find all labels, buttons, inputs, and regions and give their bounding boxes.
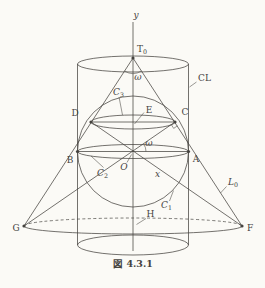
label-f: F [247, 223, 253, 233]
label-e: E [146, 105, 153, 115]
label-b: B [67, 155, 74, 165]
leader-h [137, 219, 147, 225]
leader-c2 [91, 156, 104, 168]
point-dot-b [76, 150, 79, 153]
label-c1: C1 [161, 200, 172, 211]
label-y-axis: y [132, 10, 139, 20]
point-dot-g [22, 224, 25, 227]
label-a: A [192, 154, 200, 164]
label-omega-apex: ω [134, 72, 142, 82]
line-f-d [91, 122, 242, 226]
point-dot-f [240, 224, 243, 227]
leader-l0 [221, 187, 227, 194]
label-o: O [120, 162, 128, 172]
point-dot-t0 [131, 56, 134, 59]
label-l0: L0 [227, 177, 238, 188]
label-c3: C3 [113, 87, 124, 98]
label-d: D [71, 108, 78, 118]
point-dot-a [187, 150, 190, 153]
label-h: H [147, 209, 155, 219]
label-cl: CL [198, 73, 211, 83]
point-dot-d [89, 120, 92, 123]
label-omega-center: ω [145, 138, 153, 148]
label-c: C [182, 107, 189, 117]
figure-4-3-1: y T0 ω CL C3 D E C B A ω O C2 x L0 C1 H … [0, 0, 265, 288]
leader-c1 [170, 191, 174, 202]
geometry-diagram: y T0 ω CL C3 D E C B A ω O C2 x L0 C1 H … [0, 0, 265, 288]
label-t0: T0 [137, 44, 147, 55]
label-g: G [12, 223, 19, 233]
figure-caption: 図 4.3.1 [113, 258, 153, 269]
label-x-axis: x [155, 169, 160, 179]
point-dot-c [173, 120, 176, 123]
leader-c3 [119, 97, 123, 115]
leader-cl [190, 82, 197, 87]
